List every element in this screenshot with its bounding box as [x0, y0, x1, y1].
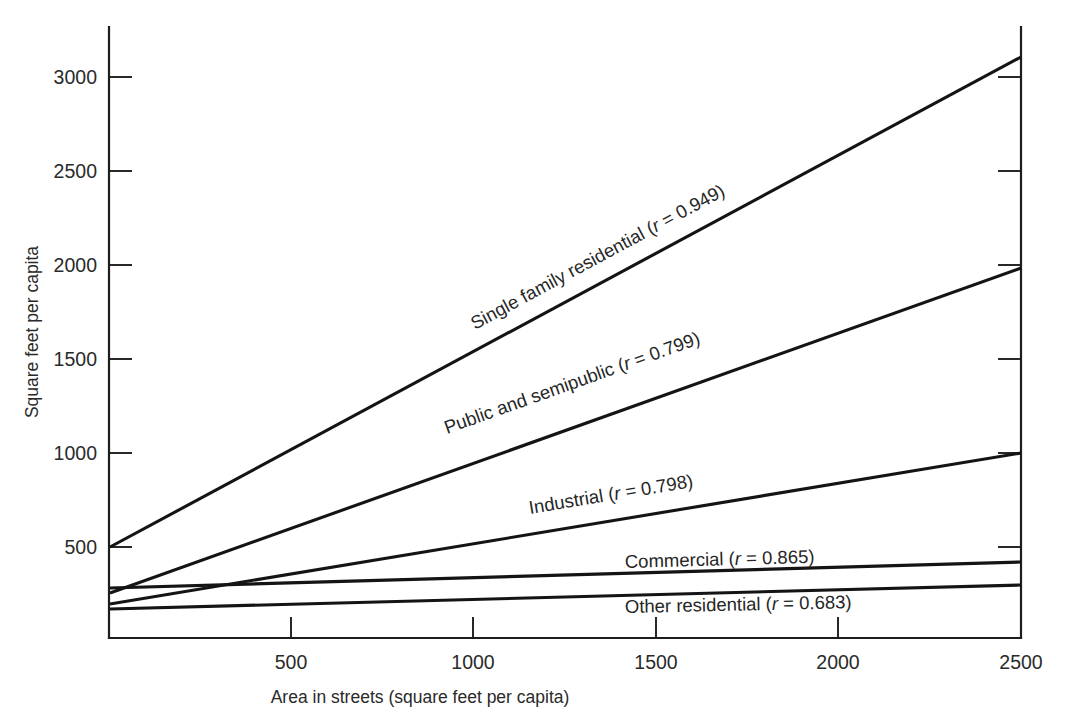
chart-canvas: 3000 2500 2000 1500 1000 500 500 1000 15… — [0, 0, 1065, 719]
y-axis-title: Square feet per capita — [22, 246, 42, 418]
series-label-single-family-residential-suffix: = 0.949) — [653, 180, 728, 233]
axis-frame — [109, 27, 1021, 638]
series-label-commercial-suffix: = 0.865) — [741, 546, 815, 569]
y-axis-ticks — [109, 77, 132, 547]
x-tick-label-1500: 1500 — [634, 651, 678, 673]
series-label-other-residential-suffix: = 0.683) — [778, 591, 852, 614]
y-tick-label-3000: 3000 — [54, 66, 98, 88]
series-line-commercial — [110, 562, 1021, 588]
series-label-single-family-residential-prefix: Single family residential ( — [467, 217, 659, 333]
series-label-single-family-residential: Single family residential (r = 0.949) — [467, 180, 728, 334]
series-line-industrial — [110, 453, 1021, 604]
series-lines — [110, 57, 1021, 609]
series-label-industrial-prefix: Industrial ( — [527, 483, 616, 518]
y-tick-labels: 3000 2500 2000 1500 1000 500 — [54, 66, 98, 558]
series-label-commercial-prefix: Commercial ( — [625, 548, 736, 572]
series-label-other-residential: Other residential (r = 0.683) — [625, 591, 852, 617]
y-tick-label-500: 500 — [64, 536, 97, 558]
series-line-single-family-residential — [110, 57, 1021, 547]
series-label-other-residential-prefix: Other residential ( — [625, 593, 773, 617]
chart-figure: 3000 2500 2000 1500 1000 500 500 1000 15… — [0, 0, 1065, 719]
x-tick-label-1000: 1000 — [451, 651, 495, 673]
series-labels: Single family residential (r = 0.949) Pu… — [441, 180, 852, 617]
series-label-industrial-suffix: = 0.798) — [619, 470, 695, 503]
y-tick-label-1500: 1500 — [54, 348, 98, 370]
y-axis-ticks-right — [998, 77, 1021, 547]
y-tick-label-1000: 1000 — [54, 442, 98, 464]
series-line-public-and-semipublic — [110, 268, 1021, 593]
y-tick-label-2000: 2000 — [54, 254, 98, 276]
x-tick-label-500: 500 — [275, 651, 308, 673]
x-axis-title: Area in streets (square feet per capita) — [271, 687, 570, 707]
series-label-public-and-semipublic-suffix: = 0.799) — [626, 327, 702, 371]
x-tick-label-2500: 2500 — [999, 651, 1043, 673]
x-tick-labels: 500 1000 1500 2000 2500 — [275, 651, 1043, 673]
x-axis-ticks — [291, 617, 838, 638]
series-label-public-and-semipublic: Public and semipublic (r = 0.799) — [441, 327, 702, 437]
series-line-other-residential — [110, 585, 1021, 609]
series-label-public-and-semipublic-prefix: Public and semipublic ( — [441, 354, 628, 438]
y-tick-label-2500: 2500 — [54, 160, 98, 182]
x-tick-label-2000: 2000 — [816, 651, 860, 673]
